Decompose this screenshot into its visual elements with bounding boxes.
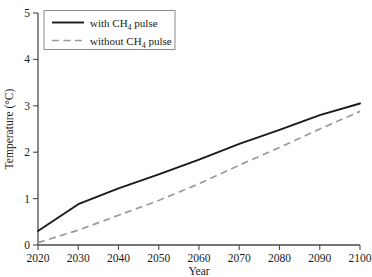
x-tick-label: 2050 — [147, 252, 170, 264]
series-line-without-ch4-pulse — [38, 111, 360, 242]
x-axis-tick-labels: 2020 2030 2040 2050 2060 2070 2080 2090 … — [27, 252, 372, 264]
x-tick-label: 2030 — [67, 252, 90, 264]
y-tick-label: 0 — [24, 239, 30, 251]
chart-legend: with CH4 pulse without CH4 pulse — [44, 11, 175, 50]
x-axis-title: Year — [188, 265, 209, 277]
x-tick-label: 2040 — [107, 252, 130, 264]
y-tick-label: 4 — [24, 53, 30, 65]
x-tick-label: 2020 — [27, 252, 50, 264]
y-axis-title: Temperature (°C) — [3, 88, 16, 169]
x-tick-label: 2070 — [228, 252, 251, 264]
x-tick-label: 2090 — [308, 252, 331, 264]
x-tick-label: 2080 — [268, 252, 291, 264]
x-tick-label: 2060 — [188, 252, 211, 264]
chart-container: 0 1 2 3 4 5 2020 2030 2040 2050 2060 207… — [0, 0, 372, 277]
y-tick-label: 1 — [24, 193, 30, 205]
temperature-projection-chart: 0 1 2 3 4 5 2020 2030 2040 2050 2060 207… — [0, 0, 372, 277]
y-tick-label: 5 — [24, 7, 30, 19]
y-tick-label: 2 — [24, 146, 30, 158]
x-tick-label: 2100 — [349, 252, 372, 264]
y-axis-ticks — [33, 13, 38, 245]
y-tick-label: 3 — [24, 100, 30, 112]
series-line-with-ch4-pulse — [38, 103, 360, 231]
y-axis-tick-labels: 0 1 2 3 4 5 — [24, 7, 30, 251]
x-axis-ticks — [38, 245, 360, 250]
